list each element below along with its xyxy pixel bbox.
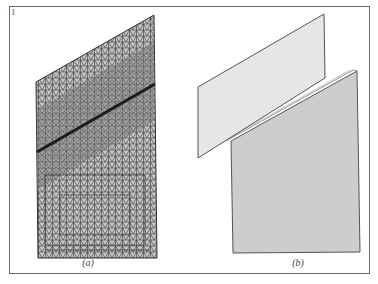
- panel-b-pieces: [198, 14, 360, 253]
- panel-b-label: (b): [292, 257, 304, 268]
- figure-canvas: [0, 0, 378, 284]
- panel-a-label: (a): [82, 257, 94, 268]
- panel-a-mesh: [36, 15, 157, 258]
